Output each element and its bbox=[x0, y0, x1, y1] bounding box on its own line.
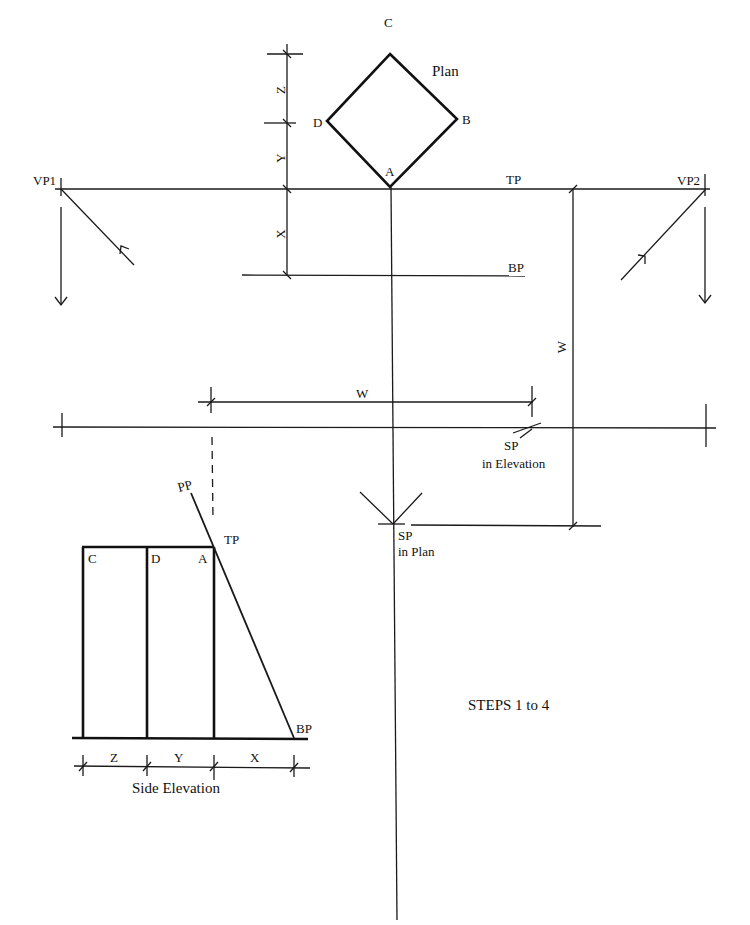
bp-line bbox=[242, 275, 525, 276]
perspective-construction-diagram: Plan C B D A TP BP Z Y X VP1 VP2 bbox=[0, 0, 750, 925]
side-dim-y-label: Y bbox=[174, 750, 184, 765]
side-bp-label: BP bbox=[296, 721, 312, 736]
dim-x-label: X bbox=[273, 229, 288, 239]
projection-dashed-line bbox=[212, 437, 213, 520]
pp-sloped-line bbox=[191, 493, 294, 738]
side-dim-z-label: Z bbox=[110, 750, 118, 765]
vp1-construction bbox=[55, 178, 134, 305]
steps-caption: STEPS 1 to 4 bbox=[468, 697, 550, 713]
bp-label: BP bbox=[508, 260, 524, 275]
sp-elevation-label-line2: in Elevation bbox=[482, 456, 546, 471]
w-vertical-dimension bbox=[569, 185, 577, 530]
elevation-horizon-line bbox=[53, 404, 716, 447]
w-vertical-label: W bbox=[554, 340, 569, 353]
vp2-construction bbox=[621, 174, 711, 303]
tp-label: TP bbox=[506, 172, 521, 187]
plan-corner-b: B bbox=[462, 112, 471, 127]
dim-y-label: Y bbox=[273, 153, 288, 163]
sp-plan-label-line1: SP bbox=[398, 528, 412, 543]
plan-title: Plan bbox=[432, 63, 459, 79]
vp1-label: VP1 bbox=[33, 173, 56, 188]
side-elevation-title: Side Elevation bbox=[132, 780, 220, 796]
side-dim-x-label: X bbox=[250, 750, 260, 765]
w-horizontal-label: W bbox=[356, 386, 369, 401]
side-tp-label: TP bbox=[224, 532, 239, 547]
vp2-label: VP2 bbox=[677, 173, 700, 188]
side-elevation-block bbox=[72, 547, 308, 739]
plan-corner-d: D bbox=[313, 115, 322, 130]
sp-elevation-label-line1: SP bbox=[504, 438, 518, 453]
dim-z-label: Z bbox=[273, 86, 288, 94]
sp-plan-marker bbox=[360, 492, 601, 526]
side-corner-d: D bbox=[151, 551, 160, 566]
plan-corner-c: C bbox=[384, 15, 393, 30]
side-corner-a: A bbox=[198, 551, 208, 566]
plan-corner-a: A bbox=[385, 164, 395, 179]
side-pp-label: PP bbox=[176, 477, 194, 495]
sp-plan-label-line2: in Plan bbox=[398, 544, 435, 559]
center-sight-line bbox=[391, 187, 397, 920]
side-corner-c: C bbox=[88, 551, 97, 566]
